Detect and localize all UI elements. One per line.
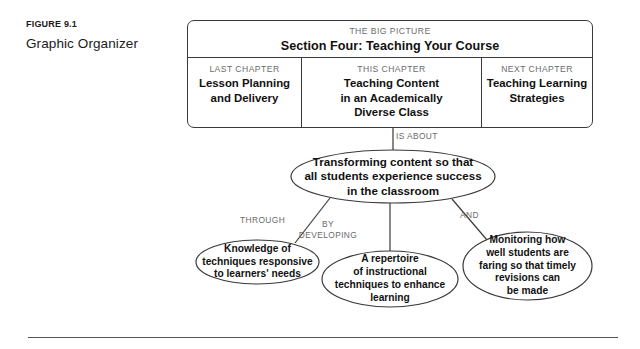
chapter-kicker-this: THIS CHAPTER [357,63,425,75]
big-picture-title: Section Four: Teaching Your Course [281,38,500,54]
chapter-name-last: Lesson Planningand Delivery [199,76,290,105]
chapter-column-next: NEXT CHAPTER Teaching LearningStrategies [482,58,592,127]
big-picture-header: THE BIG PICTURE Section Four: Teaching Y… [188,21,592,58]
node-text-main: Transforming content so thatall students… [291,150,495,203]
chapter-kicker-next: NEXT CHAPTER [501,63,573,75]
connector-label-through: THROUGH [240,215,285,226]
figure-caption: FIGURE 9.1 Graphic Organizer [26,18,176,53]
chapter-column-this: THIS CHAPTER Teaching Contentin an Acade… [302,58,482,127]
bottom-divider [28,337,618,338]
chapter-kicker-last: LAST CHAPTER [209,63,279,75]
figure-number: FIGURE 9.1 [26,18,176,31]
big-picture-box: THE BIG PICTURE Section Four: Teaching Y… [187,20,593,128]
big-picture-kicker: THE BIG PICTURE [349,25,430,37]
connector-label-and: AND [460,210,479,221]
connector-label-by-developing: BYDEVELOPING [293,219,363,240]
figure-title: Graphic Organizer [26,34,176,53]
chapter-name-next: Teaching LearningStrategies [487,76,587,105]
chapter-column-last: LAST CHAPTER Lesson Planningand Delivery [188,58,302,127]
node-text-repertoire: A repertoireof instructionaltechniques t… [322,251,458,307]
node-text-knowledge: Knowledge oftechniques responsiveto lear… [196,240,319,284]
chapter-columns: LAST CHAPTER Lesson Planningand Delivery… [188,58,592,127]
connector-label-is-about: IS ABOUT [396,131,438,142]
chapter-name-this: Teaching Contentin an AcademicallyDivers… [340,76,442,120]
node-text-monitoring: Monitoring howwell students arefaring so… [463,232,592,300]
